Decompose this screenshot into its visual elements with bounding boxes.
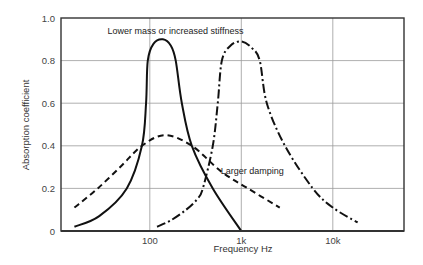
plot-frame <box>61 18 404 231</box>
y-axis-title: Absorption coefficient <box>20 79 31 170</box>
tick-labels: 00.20.40.60.81.01001k10k <box>42 13 341 247</box>
y-tick-label: 0.8 <box>42 55 55 66</box>
gridlines <box>61 18 404 231</box>
plot-border <box>61 18 404 231</box>
y-tick-label: 0.4 <box>42 140 55 151</box>
series-solid-curve <box>74 39 241 231</box>
y-tick-label: 0.6 <box>42 98 55 109</box>
x-tick-label: 10k <box>325 235 341 246</box>
absorption-chart: 00.20.40.60.81.01001k10k Lower mass or i… <box>0 0 423 265</box>
y-tick-label: 0 <box>50 226 55 237</box>
y-tick-label: 1.0 <box>42 13 55 24</box>
x-axis-title: Frequency Hz <box>213 243 272 254</box>
annotation-larger-damping: Larger damping <box>221 166 284 176</box>
x-tick-label: 100 <box>142 235 158 246</box>
annotation-lower-mass: Lower mass or increased stiffness <box>108 26 244 36</box>
series-dash-dot-curve <box>157 41 358 226</box>
curves <box>74 39 357 231</box>
y-tick-label: 0.2 <box>42 183 55 194</box>
